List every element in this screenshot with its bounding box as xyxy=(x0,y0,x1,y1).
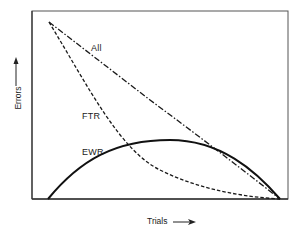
label-ewr: EWR xyxy=(82,147,104,157)
chart-canvas xyxy=(0,0,304,242)
label-all: All xyxy=(91,43,102,53)
arrow-up-icon xyxy=(14,57,19,64)
y-axis-label: Errors xyxy=(13,83,23,113)
label-ftr: FTR xyxy=(82,111,100,121)
x-axis-label: Trials xyxy=(147,216,167,226)
